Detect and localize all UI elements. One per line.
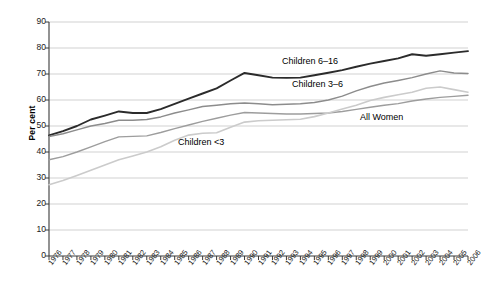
series-annotation-label: Children 3–6 bbox=[292, 79, 343, 89]
series-annotation-label: All Women bbox=[360, 112, 403, 122]
series-annotation-label: Children <3 bbox=[178, 137, 224, 147]
series-line-children-3-6 bbox=[49, 71, 468, 137]
series-line-all-women bbox=[49, 95, 468, 159]
series-annotation-label: Children 6–16 bbox=[282, 56, 338, 66]
